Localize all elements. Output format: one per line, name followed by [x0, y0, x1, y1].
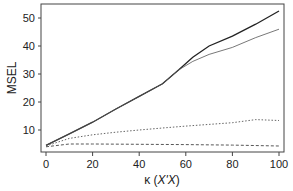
x-tick-label: 80	[226, 158, 238, 170]
series-line-dotted	[46, 120, 279, 146]
msel-chart: 1020304050 020406080100 MSEL κ (X'X)	[0, 0, 293, 191]
y-tick-label: 10	[23, 124, 35, 136]
plot-lines	[46, 11, 279, 147]
x-tick-label: 20	[86, 158, 98, 170]
x-tick-label: 40	[133, 158, 145, 170]
x-tick-label: 60	[180, 158, 192, 170]
series-line-solid-thick	[46, 11, 279, 145]
x-tick-label: 100	[270, 158, 288, 170]
y-tick-label: 50	[23, 12, 35, 24]
x-tick-label: 0	[43, 158, 49, 170]
y-axis-title: MSEL	[5, 61, 19, 94]
series-line-solid-thin	[46, 29, 279, 145]
x-axis-title: κ (X'X)	[144, 173, 180, 187]
y-tick-label: 40	[23, 40, 35, 52]
x-axis: 020406080100	[43, 152, 288, 170]
y-tick-label: 30	[23, 68, 35, 80]
y-tick-label: 20	[23, 96, 35, 108]
series-line-dashed	[46, 144, 279, 147]
y-axis: 1020304050	[23, 12, 41, 136]
